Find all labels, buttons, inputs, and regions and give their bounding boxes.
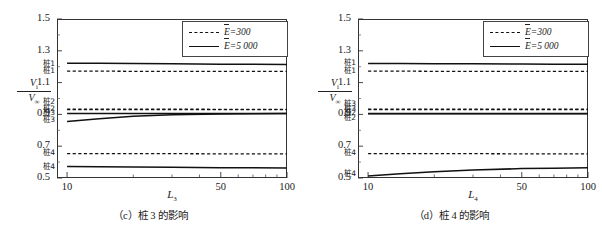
curve-label: 桩4 <box>31 149 55 157</box>
series-line <box>67 114 287 122</box>
legend-entry-dashed-c: EE=300=300 <box>189 25 250 39</box>
y-tick-label: 1.3 <box>321 45 351 55</box>
x-tick-label: 10 <box>47 181 87 192</box>
legend-solid-swatch-icon <box>189 43 219 51</box>
curve-label: 桩2 <box>332 114 356 122</box>
y-tick-label: 1.1 <box>20 77 50 87</box>
y-tick-label: 1.1 <box>321 77 351 87</box>
series-line <box>368 168 588 176</box>
legend-dash-swatch-icon <box>189 29 219 37</box>
caption-d: （d）桩 4 的影响 <box>301 207 602 222</box>
curve-label: 桩4 <box>31 163 55 171</box>
chart-panel-c: Vi V∞ EE=300=300 E=5 000 L3 （c）桩 3 的影响 0… <box>0 0 301 241</box>
legend-d: E=300 E=5 000 <box>483 21 589 57</box>
x-tick-label: 50 <box>201 181 241 192</box>
figure-container: Vi V∞ EE=300=300 E=5 000 L3 （c）桩 3 的影响 0… <box>0 0 602 241</box>
series-line <box>67 63 287 64</box>
y-tick-label: 0.5 <box>20 172 50 182</box>
caption-c: （c）桩 3 的影响 <box>0 207 301 222</box>
x-tick-label: 10 <box>348 181 388 192</box>
legend-c: EE=300=300 E=5 000 <box>182 21 288 57</box>
curve-label: 桩4 <box>332 170 356 178</box>
curve-label: 桩1 <box>332 67 356 75</box>
legend-entry-dashed-d: E=300 <box>490 25 551 39</box>
curve-label: 桩4 <box>332 149 356 157</box>
y-tick-label: 1.3 <box>20 45 50 55</box>
legend-dash-swatch-icon <box>490 29 520 37</box>
y-tick-label: 1.5 <box>20 13 50 23</box>
series-line <box>368 64 588 65</box>
chart-panel-d: Vi V∞ E=300 E=5 000 L4 （d）桩 4 的影响 0.50.7… <box>301 0 602 241</box>
y-tick-label: 1.5 <box>321 13 351 23</box>
x-axis-title-c: L3 <box>57 188 287 203</box>
x-axis-title-d: L4 <box>358 188 588 203</box>
x-tick-label: 100 <box>568 181 602 192</box>
legend-entry-solid-c: E=5 000 <box>189 39 258 53</box>
series-line <box>67 166 287 168</box>
x-tick-label: 50 <box>502 181 542 192</box>
curve-label: 桩1 <box>31 67 55 75</box>
legend-solid-swatch-icon <box>490 43 520 51</box>
curve-label: 桩3 <box>31 116 55 124</box>
legend-entry-solid-d: E=5 000 <box>490 39 559 53</box>
